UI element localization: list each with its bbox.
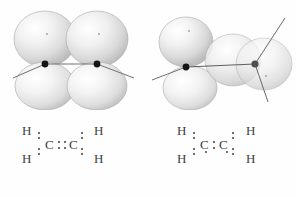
- lewis-label-carbon-right: C: [69, 138, 78, 151]
- panel-twisted-ethene: H H C C H: [148, 0, 296, 197]
- lewis-label-h-bottom-right: H: [94, 152, 103, 165]
- lewis-label-carbon-left: C: [45, 138, 54, 151]
- cc-bond-dot: [213, 147, 215, 149]
- orbital-node-mark-left: [188, 30, 190, 32]
- bond-dot: [38, 137, 40, 139]
- bond-dot: [232, 148, 234, 150]
- bond-dot: [81, 137, 83, 139]
- bond-dot: [193, 137, 195, 139]
- bond-dot: [38, 148, 40, 150]
- twisted-orbital-svg: [148, 0, 296, 110]
- orbital-node-mark-right: [98, 33, 100, 35]
- lewis-label-h-bottom-right: H: [246, 152, 255, 165]
- cc-bond-dot: [213, 141, 215, 143]
- cc-bond-dot: [58, 141, 60, 143]
- lewis-label-h-bottom-left: H: [22, 152, 31, 165]
- p-orbital-lobe-upper-right: [66, 11, 128, 67]
- lewis-label-h-top-left: H: [22, 124, 31, 137]
- bond-dot: [81, 148, 83, 150]
- bond-dot: [193, 153, 195, 155]
- orbital-node-mark-right: [265, 75, 267, 77]
- bond-dot: [232, 137, 234, 139]
- p-orbital-lobe-lower-right: [67, 62, 127, 110]
- chemistry-figure: H H C C H: [0, 0, 296, 197]
- lewis-label-carbon-left: C: [200, 138, 209, 151]
- orbital-node-mark-left: [46, 33, 48, 35]
- carbon-nucleus-right: [94, 61, 101, 68]
- panel-planar-ethene: H H C C H: [0, 0, 148, 197]
- bond-dot: [193, 132, 195, 134]
- bond-dot: [81, 132, 83, 134]
- carbon-nucleus-left: [183, 64, 190, 71]
- radical-dot-left-carbon: [205, 151, 207, 153]
- bond-dot: [232, 132, 234, 134]
- radical-dot-right-carbon: [226, 151, 228, 153]
- lewis-label-carbon-right: C: [219, 138, 228, 151]
- orbital-diagram-twisted: [148, 0, 296, 110]
- carbon-nucleus-right: [251, 60, 258, 67]
- p-orbital-lobe-lower-left: [15, 62, 75, 110]
- bond-dot: [232, 153, 234, 155]
- bond-dot: [81, 153, 83, 155]
- bond-dot: [38, 153, 40, 155]
- bond-dot: [38, 132, 40, 134]
- cc-bond-dot: [64, 147, 66, 149]
- bond-dot: [193, 148, 195, 150]
- lewis-label-h-bottom-left: H: [177, 152, 186, 165]
- lewis-structure-planar: H H C C H: [0, 108, 148, 197]
- lewis-structure-twisted: H H C C H: [148, 108, 296, 197]
- carbon-nucleus-left: [42, 61, 49, 68]
- lewis-label-h-top-right: H: [246, 124, 255, 137]
- cc-bond-dot: [58, 147, 60, 149]
- lewis-label-h-top-left: H: [177, 124, 186, 137]
- cc-bond-dot: [64, 141, 66, 143]
- planar-orbital-svg: [0, 0, 148, 110]
- lewis-label-h-top-right: H: [94, 124, 103, 137]
- orbital-diagram-planar: [0, 0, 148, 110]
